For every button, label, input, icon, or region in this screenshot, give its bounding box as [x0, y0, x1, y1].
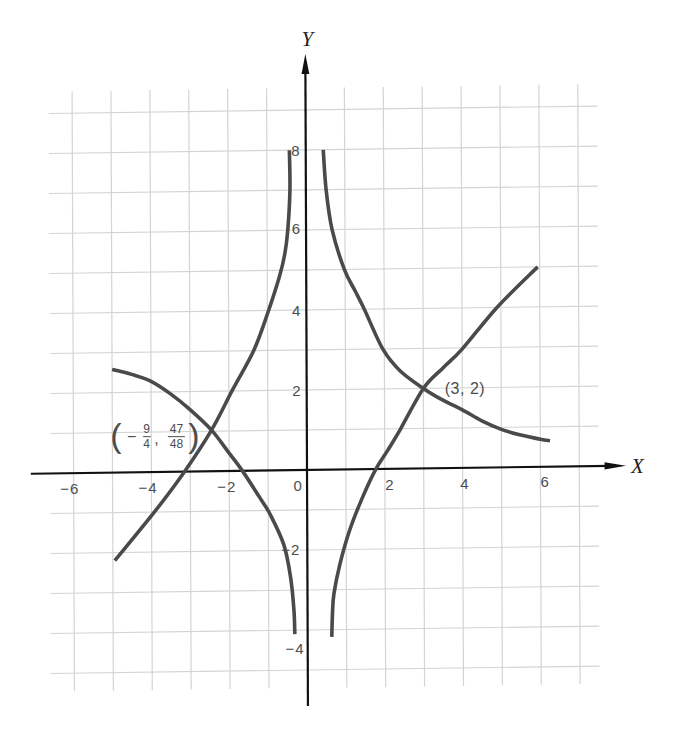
grid-line-vertical	[72, 91, 74, 691]
x-tick-label: 0	[293, 477, 302, 494]
grid-line-horizontal	[49, 266, 597, 273]
grid-line-horizontal	[50, 386, 598, 393]
grid-line-vertical	[578, 84, 580, 684]
comma: ,	[154, 430, 158, 447]
y-tick-label: 6	[292, 220, 301, 237]
axes	[31, 54, 626, 706]
x-tick-label: −6	[60, 480, 79, 497]
y-tick-label: 4	[292, 302, 301, 319]
fraction-1-denominator: 4	[143, 437, 150, 451]
intersection-label: (3, 2)	[445, 380, 485, 397]
curve-b-branch-1	[115, 150, 290, 560]
fraction-2-denominator: 48	[170, 437, 184, 451]
graph-figure: XY−6−4−202468642−2−4(3, 2)(−94,4748)	[0, 0, 677, 733]
x-tick-label: 4	[460, 475, 469, 492]
minus-sign: −	[127, 428, 136, 445]
grid-line-horizontal	[50, 506, 598, 513]
grid-line-vertical	[539, 85, 541, 685]
y-axis	[305, 70, 308, 706]
x-tick-label: 6	[540, 473, 549, 490]
grid-line-vertical	[344, 87, 346, 687]
y-tick-label: −2	[281, 541, 300, 558]
y-tick-label: −4	[285, 640, 304, 657]
grid-line-vertical	[228, 89, 230, 689]
labels: XY−6−4−202468642−2−4(3, 2)(−94,4748)	[60, 27, 645, 657]
open-paren: (	[110, 416, 122, 454]
x-axis-title: X	[630, 454, 645, 478]
grid-line-horizontal	[49, 226, 597, 233]
graph-canvas: XY−6−4−202468642−2−4(3, 2)(−94,4748)	[0, 0, 677, 733]
curve-b-branch-2	[332, 267, 538, 637]
intersection-label-fraction: (−94,4748)	[110, 416, 199, 454]
grid-line-horizontal	[51, 546, 599, 553]
fraction-2-numerator: 47	[170, 422, 184, 436]
grid-line-horizontal	[51, 666, 599, 673]
grid-line-vertical	[150, 90, 152, 690]
y-tick-label: 2	[292, 382, 301, 399]
curve-a-branch-1	[323, 150, 550, 441]
grid-line-horizontal	[50, 306, 598, 313]
grid-line-vertical	[189, 90, 191, 690]
grid-line-vertical	[383, 87, 385, 687]
x-axis-arrow-icon	[605, 462, 626, 469]
grid-line-horizontal	[51, 626, 599, 633]
fraction-1-numerator: 9	[143, 422, 150, 436]
y-axis-arrow-icon	[302, 54, 310, 74]
x-axis	[31, 466, 611, 474]
grid-line-vertical	[500, 85, 502, 685]
x-tick-label: 2	[385, 476, 394, 493]
grid-line-horizontal	[51, 586, 599, 593]
x-tick-label: −4	[138, 479, 157, 496]
x-tick-label: −2	[217, 478, 236, 495]
close-paren: )	[188, 416, 199, 454]
grid-line-horizontal	[49, 186, 597, 193]
grid-line-vertical	[267, 89, 269, 689]
grid-line-vertical	[111, 91, 113, 691]
y-axis-title: Y	[301, 27, 315, 51]
y-tick-label: 8	[291, 142, 300, 159]
grid-line-horizontal	[49, 106, 597, 113]
grid-line-horizontal	[50, 346, 598, 353]
